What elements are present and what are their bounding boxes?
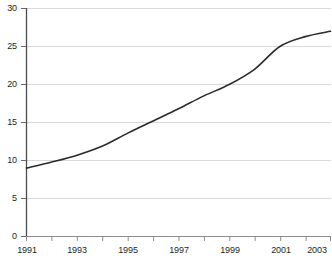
line-chart: 30 25 20 15 10 5 0 1991 1993 1995 1997 1… [0,0,332,267]
data-line-series-1 [27,31,331,168]
y-axis-label-30: 30 [0,3,17,13]
y-axis-label-20: 20 [0,79,17,89]
x-axis-label-1997: 1997 [164,245,194,255]
x-axis-label-1991: 1991 [12,245,42,255]
y-axis-label-25: 25 [0,41,17,51]
y-axis-ticks [21,9,26,237]
y-axis-label-10: 10 [0,155,17,165]
gridlines [26,9,331,199]
x-axis-label-1999: 1999 [215,245,245,255]
x-axis-label-1995: 1995 [113,245,143,255]
x-axis-label-2001: 2001 [266,245,296,255]
x-axis-label-1993: 1993 [62,245,92,255]
y-axis-label-0: 0 [0,231,17,241]
x-axis-label-2003: 2003 [302,245,332,255]
y-axis-label-5: 5 [0,193,17,203]
chart-canvas [0,0,332,267]
y-axis-label-15: 15 [0,117,17,127]
